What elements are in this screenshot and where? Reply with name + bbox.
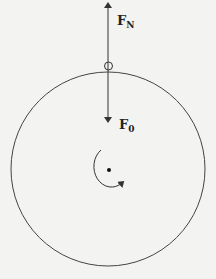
- center-dot: [107, 168, 111, 172]
- normal-force-label: FN: [117, 13, 134, 30]
- wheel-force-diagram: FN F0: [0, 0, 216, 279]
- applied-force-label: F0: [119, 117, 135, 134]
